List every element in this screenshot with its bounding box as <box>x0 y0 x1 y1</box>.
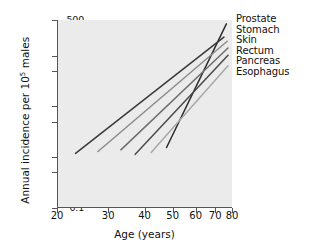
series-layer <box>58 20 232 207</box>
legend-item-esophagus: Esophagus <box>236 67 289 78</box>
x-tick-mark <box>196 208 197 213</box>
x-tick-mark <box>232 208 233 213</box>
series-line-skin <box>98 41 227 151</box>
x-tick-mark <box>173 208 174 213</box>
x-tick-mark <box>215 208 216 213</box>
x-tick-mark <box>57 208 58 213</box>
y-axis-label: Annual incidence per 105 males <box>19 25 32 215</box>
cancer-incidence-figure: Annual incidence per 105 males 0.10.5151… <box>0 0 317 252</box>
plot-area <box>57 20 232 208</box>
legend: ProstateStomachSkinRectumPancreasEsophag… <box>236 14 289 78</box>
x-tick-mark <box>108 208 109 213</box>
plot-inner <box>58 20 232 207</box>
series-line-rectum <box>121 48 228 150</box>
x-tick-mark <box>145 208 146 213</box>
legend-item-prostate: Prostate <box>236 14 289 25</box>
y-axis-label-text: Annual incidence per 10 <box>19 76 31 204</box>
y-axis-label-exponent: 5 <box>19 72 27 76</box>
y-axis-label-tail: males <box>19 37 31 72</box>
x-axis-label: Age (years) <box>57 228 232 240</box>
